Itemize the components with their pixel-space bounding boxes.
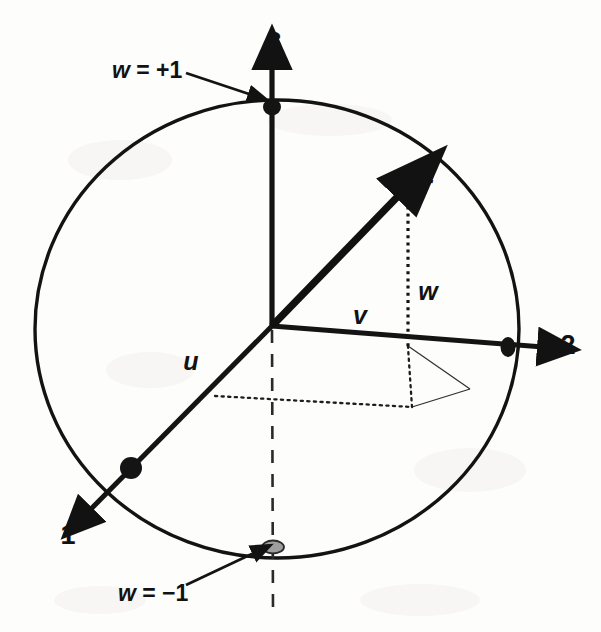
annotation-w-plus-one-arrow [186, 73, 252, 95]
vector-label-v: v [353, 301, 369, 329]
axis-label-3: 3 [266, 27, 281, 57]
figure-root: 3 2 1 r u v w w = +1 w = −1 [0, 0, 601, 632]
annotation-w-plus-one-label: w = +1 [112, 57, 183, 83]
marker-sphere-bottom [262, 541, 284, 554]
axis-label-1: 1 [60, 520, 75, 550]
annotation-w-minus-one-arrow [186, 552, 256, 585]
marker-axis3-top [263, 99, 281, 116]
projection-line-u [215, 396, 412, 407]
paper-texture [54, 104, 526, 616]
marker-axis1-front [120, 457, 142, 479]
annotation-w-minus-one-label: w = −1 [118, 580, 189, 606]
vector-label-u: u [183, 347, 198, 375]
marker-axis2-right [501, 337, 516, 357]
axis-1-line [88, 326, 272, 512]
vector-r-line [272, 190, 404, 326]
annotation-w-plus-one-relation: = +1 [130, 57, 183, 83]
caption-remnant [0, 604, 601, 632]
projection-line-base [408, 347, 412, 407]
vector-sphere-diagram: 3 2 1 r u v w w = +1 w = −1 [0, 0, 601, 632]
axis-3-negative-dashed [272, 330, 273, 612]
vector-label-w: w [418, 277, 439, 305]
annotation-w-minus-one-relation: = −1 [136, 580, 189, 606]
projection-parallelogram [408, 346, 470, 407]
vector-label-r: r [422, 171, 433, 199]
axis-label-2: 2 [560, 330, 575, 360]
